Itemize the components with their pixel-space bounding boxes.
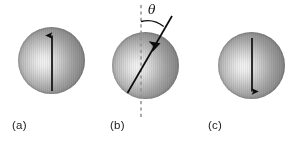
vector-overlay bbox=[0, 0, 300, 141]
magnetization-arrow-tilted-head bbox=[149, 41, 161, 52]
angle-arc bbox=[141, 21, 164, 27]
magnetization-arrow-tilted-shaft bbox=[128, 16, 173, 93]
magnetization-states-figure: (a) θ (b) (c) bbox=[0, 0, 300, 141]
